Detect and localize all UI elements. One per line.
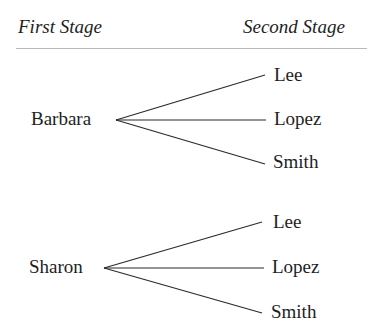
branch-sharon-lee bbox=[104, 222, 262, 268]
branch-lines bbox=[0, 0, 389, 334]
leaf-node-lopez: Lopez bbox=[272, 257, 319, 276]
root-node-sharon: Sharon bbox=[29, 257, 83, 276]
leaf-node-smith: Smith bbox=[273, 152, 318, 171]
leaf-node-lopez: Lopez bbox=[274, 109, 321, 128]
branch-sharon-smith bbox=[104, 268, 262, 313]
root-node-barbara: Barbara bbox=[31, 109, 91, 128]
branch-barbara-smith bbox=[116, 120, 265, 164]
leaf-node-lee: Lee bbox=[274, 65, 302, 84]
leaf-node-lee: Lee bbox=[273, 212, 301, 231]
leaf-node-smith: Smith bbox=[271, 302, 316, 321]
branch-barbara-lee bbox=[116, 75, 265, 120]
